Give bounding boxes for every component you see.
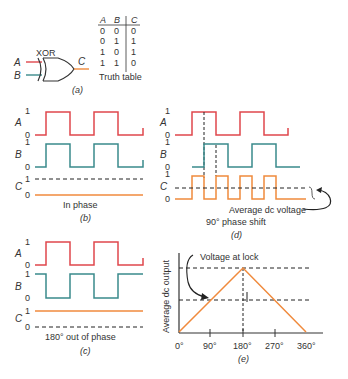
svg-text:0: 0 (25, 293, 30, 303)
description-d: 90° phase shift (206, 217, 266, 227)
svg-text:0: 0 (25, 162, 30, 172)
annotation-average-dc: Average dc voltage (229, 205, 306, 215)
svg-text:A: A (14, 248, 22, 259)
svg-text:0: 0 (25, 190, 30, 200)
input-b-label: B (14, 70, 21, 81)
caption-a: (a) (72, 85, 83, 95)
svg-text:0: 0 (114, 47, 119, 57)
svg-text:0: 0 (131, 26, 136, 36)
svg-text:C: C (160, 181, 168, 192)
caption-e: (e) (238, 354, 249, 364)
caption-c: (c) (80, 346, 91, 356)
svg-text:1: 1 (25, 269, 30, 279)
signal-b-waveform (192, 144, 300, 167)
svg-text:1: 1 (114, 58, 119, 68)
svg-text:B: B (15, 281, 22, 292)
signal-a-waveform (175, 112, 288, 135)
svg-text:0: 0 (25, 322, 30, 332)
signal-a-waveform (35, 112, 143, 135)
curved-arrow-icon (303, 190, 331, 210)
svg-text:C: C (15, 181, 23, 192)
panel-d: 1 A 0 1 B 0 1 C 0 Average dc voltage 90°… (159, 106, 331, 240)
arrowhead-icon (316, 187, 322, 193)
svg-text:B: B (160, 149, 167, 160)
panel-c: 1 A 0 1 B 0 1 C 0 180° out of phase (c) (14, 237, 143, 356)
svg-text:1: 1 (25, 106, 30, 116)
svg-text:1: 1 (114, 36, 119, 46)
svg-text:B: B (15, 149, 22, 160)
svg-text:A: A (14, 117, 22, 128)
svg-text:1: 1 (100, 47, 105, 57)
svg-text:1: 1 (25, 306, 30, 316)
svg-text:1: 1 (131, 47, 136, 57)
svg-text:270°: 270° (265, 341, 284, 351)
gate-label: XOR (36, 48, 56, 58)
svg-text:1: 1 (165, 169, 170, 179)
arrowhead-icon (201, 293, 209, 300)
signal-a-waveform (35, 242, 143, 265)
svg-text:0: 0 (165, 194, 170, 204)
svg-text:A: A (159, 117, 167, 128)
svg-text:360°: 360° (297, 341, 316, 351)
svg-text:180°: 180° (233, 341, 252, 351)
svg-text:1: 1 (165, 137, 170, 147)
svg-text:C: C (15, 313, 23, 324)
signal-b-waveform (35, 274, 143, 298)
svg-text:0: 0 (100, 26, 105, 36)
xor-phase-detector-figure: XOR A B C (a) A B C 0 0 0 0 1 1 1 0 (0, 0, 348, 379)
brace-icon (309, 187, 315, 199)
output-label: C (78, 56, 86, 67)
truth-table-label: Truth table (99, 72, 142, 82)
svg-text:1: 1 (131, 36, 136, 46)
svg-text:A: A (99, 15, 106, 25)
panel-e: Average dc output Voltage at lock 0° 90°… (161, 252, 323, 364)
description-b: In phase (63, 200, 98, 210)
description-c: 180° out of phase (45, 332, 116, 342)
input-a-label: A (13, 57, 21, 68)
xor-gate-icon (38, 58, 74, 81)
svg-text:0°: 0° (175, 341, 184, 351)
signal-b-waveform (35, 144, 143, 167)
svg-text:1: 1 (165, 106, 170, 116)
svg-text:1: 1 (100, 58, 105, 68)
panel-a: XOR A B C (a) A B C 0 0 0 0 1 1 1 0 (13, 15, 142, 95)
svg-text:B: B (114, 15, 120, 25)
annotation-voltage-at-lock: Voltage at lock (200, 252, 259, 262)
panel-b: 1 A 0 1 B 0 1 C 0 In phase (b) (14, 106, 143, 223)
svg-text:C: C (131, 15, 138, 25)
svg-text:1: 1 (25, 237, 30, 247)
svg-text:1: 1 (25, 137, 30, 147)
svg-text:0: 0 (131, 58, 136, 68)
caption-d: (d) (231, 230, 242, 240)
svg-text:0: 0 (114, 26, 119, 36)
truth-table: A B C 0 0 0 0 1 1 1 0 1 1 1 0 Truth tabl… (98, 15, 142, 82)
y-axis-label: Average dc output (161, 260, 171, 333)
caption-b: (b) (80, 213, 91, 223)
svg-text:90°: 90° (203, 341, 217, 351)
svg-text:0: 0 (100, 36, 105, 46)
svg-text:1: 1 (25, 174, 30, 184)
